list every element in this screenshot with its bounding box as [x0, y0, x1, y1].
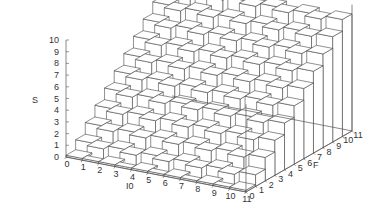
- svg-text:9: 9: [212, 188, 217, 198]
- svg-text:6: 6: [307, 158, 312, 168]
- svg-text:4: 4: [288, 169, 293, 179]
- svg-text:2: 2: [54, 129, 59, 139]
- svg-text:10: 10: [343, 135, 353, 145]
- svg-text:8: 8: [54, 58, 59, 68]
- svg-text:10: 10: [226, 191, 236, 201]
- svg-text:7: 7: [54, 70, 59, 80]
- svg-text:9: 9: [336, 141, 341, 151]
- svg-text:0: 0: [54, 152, 59, 162]
- svg-text:1: 1: [54, 140, 59, 150]
- svg-text:9: 9: [54, 47, 59, 57]
- 3d-step-surface-chart: 0123456789100123456789101101234567891011…: [0, 0, 378, 205]
- svg-text:1: 1: [259, 185, 264, 195]
- svg-text:2: 2: [269, 180, 274, 190]
- svg-text:11: 11: [353, 130, 362, 140]
- svg-text:4: 4: [54, 105, 59, 115]
- svg-text:3: 3: [278, 174, 283, 184]
- svg-text:3: 3: [54, 117, 59, 127]
- svg-text:5: 5: [54, 94, 59, 104]
- svg-text:0: 0: [64, 159, 69, 169]
- svg-text:0: 0: [249, 191, 254, 201]
- svg-text:6: 6: [163, 178, 168, 188]
- y-axis-label: F: [313, 160, 319, 170]
- svg-text:5: 5: [298, 163, 303, 173]
- svg-text:8: 8: [195, 184, 200, 194]
- svg-text:5: 5: [146, 175, 151, 185]
- svg-text:3: 3: [114, 169, 119, 179]
- svg-text:2: 2: [97, 165, 102, 175]
- x-axis-label: I0: [126, 181, 134, 191]
- svg-text:8: 8: [327, 147, 332, 157]
- z-axis-label: S: [32, 95, 38, 105]
- svg-text:6: 6: [54, 82, 59, 92]
- svg-text:10: 10: [49, 35, 59, 45]
- svg-text:7: 7: [179, 181, 184, 191]
- svg-text:1: 1: [81, 162, 86, 172]
